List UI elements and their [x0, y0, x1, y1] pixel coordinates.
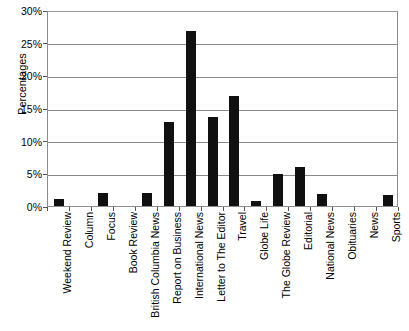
bar: [383, 195, 393, 206]
bar: [251, 201, 261, 206]
x-tick: [47, 207, 48, 211]
x-tick-label: Book Review: [128, 212, 139, 273]
bar: [142, 193, 152, 206]
x-axis-tick-labels: Weekend ReviewColumnFocusBook ReviewBrit…: [47, 212, 398, 331]
y-tick-label-15: 15%: [2, 103, 42, 115]
bar: [54, 199, 64, 206]
x-tick: [91, 207, 92, 211]
x-tick-label: Column: [84, 212, 95, 248]
x-tick: [288, 207, 289, 211]
x-tick: [310, 207, 311, 211]
x-tick-label: Weekend Review: [62, 212, 73, 294]
x-tick: [266, 207, 267, 211]
bar: [229, 96, 239, 206]
x-tick-label: Travel: [237, 212, 248, 241]
bar: [98, 193, 108, 206]
x-tick-label: Obituaries: [347, 212, 358, 260]
x-tick-label: British Columbia News: [150, 212, 161, 318]
x-tick-label: Letter to The Editor: [216, 212, 227, 302]
x-tick-label: Report on Business: [172, 212, 183, 304]
gridline-5: [48, 175, 397, 176]
x-tick: [244, 207, 245, 211]
bar: [208, 117, 218, 207]
y-tick-label-10: 10%: [2, 136, 42, 148]
x-tick: [179, 207, 180, 211]
x-tick: [157, 207, 158, 211]
x-tick-label: News: [369, 212, 380, 238]
x-tick: [113, 207, 114, 211]
y-tick-label-25: 25%: [2, 38, 42, 50]
x-tick: [376, 207, 377, 211]
gridline-25: [48, 44, 397, 45]
y-tick-label-0: 0%: [2, 201, 42, 213]
gridline-20: [48, 77, 397, 78]
x-tick-label: Sports: [391, 212, 402, 242]
gridline-10: [48, 142, 397, 143]
y-axis-tick-labels: 30%25%20%15%10%5%0%: [0, 11, 42, 207]
x-tick: [135, 207, 136, 211]
y-tick-label-5: 5%: [2, 168, 42, 180]
bar-chart: Percentages 30%25%20%15%10%5%0% Weekend …: [0, 0, 409, 331]
bar: [317, 194, 327, 206]
x-tick: [69, 207, 70, 211]
x-tick: [398, 207, 399, 211]
x-tick-label: The Globe Review: [281, 212, 292, 298]
x-tick: [223, 207, 224, 211]
x-tick-label: Focus: [106, 212, 117, 241]
bar: [164, 122, 174, 206]
x-tick-label: International News: [194, 212, 205, 299]
y-tick-label-20: 20%: [2, 70, 42, 82]
bar: [295, 167, 305, 206]
x-tick-label: Editorial: [303, 212, 314, 250]
y-tick-label-30: 30%: [2, 5, 42, 17]
x-tick: [332, 207, 333, 211]
gridline-15: [48, 110, 397, 111]
x-tick-label: Globe Life: [259, 212, 270, 260]
x-tick-label: National News: [325, 212, 336, 280]
bar: [186, 31, 196, 206]
x-tick: [201, 207, 202, 211]
plot-area: [47, 11, 398, 207]
x-tick: [354, 207, 355, 211]
bar: [273, 174, 283, 206]
